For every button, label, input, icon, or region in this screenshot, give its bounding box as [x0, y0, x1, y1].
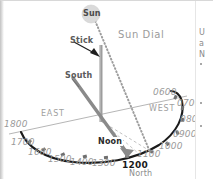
noon-label: Noon [97, 137, 123, 146]
east-label: EAST [41, 109, 65, 118]
hour-label-1300: 1300 [92, 158, 116, 168]
stick-callout-arrowhead [90, 48, 100, 57]
side-text-column: UaN [195, 1, 213, 179]
stick-label: Stick [70, 36, 93, 45]
hour-label-1600: 1600 [28, 147, 52, 157]
side-text-line-1: a [199, 39, 204, 48]
south-label: South [65, 71, 92, 80]
side-text-bullet-0 [200, 63, 202, 65]
side-text-bullet-2 [200, 125, 202, 127]
sundial-figure-canvas: Sun Sun Dial Stick South EAST WEST Noon … [0, 0, 213, 179]
hour-label-1700: 1700 [11, 137, 35, 147]
sun-label: Sun [83, 9, 101, 18]
hour-label-0600: 0600 [153, 87, 177, 97]
hour-label-0900: 0900 [173, 129, 197, 139]
hour-label-1400: 1400 [70, 157, 94, 167]
side-text-line-2: N [199, 50, 205, 59]
north-label: North [129, 169, 152, 178]
hour-label-1100: 1100 [137, 149, 161, 159]
west-label: WEST [149, 104, 175, 113]
hour-label-1800: 1800 [4, 119, 28, 129]
figure-title: Sun Dial [118, 29, 164, 40]
hour-label-1000: 1000 [159, 141, 183, 151]
side-text-bullet-1 [200, 102, 202, 104]
side-text-line-0: U [199, 28, 205, 37]
